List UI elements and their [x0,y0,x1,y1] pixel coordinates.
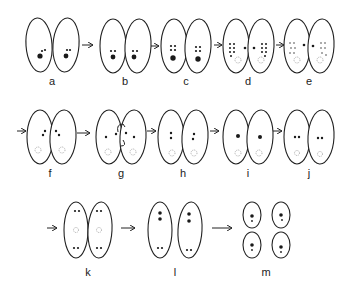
stage-h: h [158,109,209,179]
stage-label-k: k [85,266,91,278]
stage-k: k [64,201,113,278]
stage-label-a: a [49,75,56,87]
stage-e: e [284,18,335,87]
stage-f: f [27,109,77,179]
stage-m: m [243,202,290,278]
stage-b: b [100,18,152,87]
stage-g: g [96,109,147,179]
stage-label-b: b [122,75,128,87]
stage-i: i [223,109,274,179]
stage-label-e: e [306,75,312,87]
conjugation-diagram: a b c d [0,0,352,286]
stage-label-h: h [180,167,186,179]
stage-label-d: d [245,75,251,87]
stage-label-m: m [261,266,270,278]
stage-label-i: i [247,167,249,179]
stage-c: c [161,18,212,87]
stage-j: j [284,109,335,179]
stage-l: l [148,201,203,278]
stage-d: d [223,18,275,87]
stage-label-f: f [48,167,52,179]
stage-label-j: j [307,167,310,179]
stage-label-c: c [183,75,189,87]
stage-label-g: g [118,167,124,179]
stage-a: a [24,17,81,87]
stage-label-l: l [174,266,176,278]
